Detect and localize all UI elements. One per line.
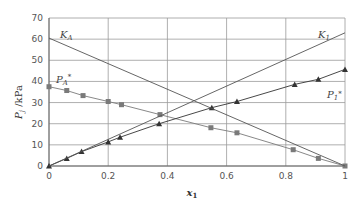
series-group — [46, 33, 348, 169]
label-pa-star: PA* — [55, 73, 72, 87]
y-tick-label: 10 — [32, 140, 44, 150]
series-line-k1 — [49, 33, 345, 166]
x-tick-label: 0 — [46, 171, 52, 181]
label-p1-star: P1* — [326, 89, 342, 102]
y-tick-label: 30 — [32, 98, 44, 108]
series-line-ka — [49, 38, 345, 166]
label-k1: K1 — [317, 29, 330, 42]
triangle-marker — [315, 76, 321, 82]
x-tick-label: 1 — [342, 171, 348, 181]
square-marker — [234, 130, 239, 135]
x-tick-label: 0.4 — [160, 171, 175, 181]
square-marker — [316, 156, 321, 161]
tick-labels: 01020304050607000.20.40.60.81 — [32, 13, 348, 181]
chart: 01020304050607000.20.40.60.81 KA K1 PA* … — [0, 0, 357, 209]
square-marker — [64, 88, 69, 93]
square-marker — [47, 84, 52, 89]
y-tick-label: 0 — [37, 161, 43, 171]
y-axis-title: Pj /kPa — [13, 85, 26, 120]
series-line-p1-star — [49, 69, 345, 166]
x-tick-label: 0.2 — [101, 171, 115, 181]
square-marker — [208, 125, 213, 130]
x-tick-label: 0.8 — [279, 171, 294, 181]
triangle-marker — [342, 66, 348, 72]
square-marker — [291, 147, 296, 152]
y-tick-label: 40 — [32, 76, 44, 86]
y-tick-label: 20 — [32, 119, 44, 129]
square-marker — [106, 99, 111, 104]
y-tick-label: 60 — [32, 34, 44, 44]
grid — [49, 18, 345, 166]
x-axis-title: x1 — [186, 187, 198, 200]
series-line-pa-star — [49, 87, 345, 166]
y-tick-label: 70 — [32, 13, 44, 23]
label-ka: KA — [59, 29, 73, 42]
y-tick-label: 50 — [32, 55, 44, 65]
square-marker — [119, 102, 124, 107]
square-marker — [81, 93, 86, 98]
x-tick-label: 0.6 — [219, 171, 234, 181]
